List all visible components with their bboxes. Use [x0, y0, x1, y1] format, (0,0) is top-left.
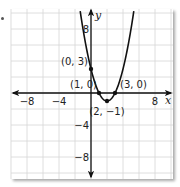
y-axis-label: y — [94, 9, 102, 22]
point-marker — [97, 91, 101, 95]
coordinate-plane: x y −8−48 8−4−8 (0, 3)(1, 0)(3, 0)(2, −1… — [0, 0, 180, 187]
x-axis-label: x — [165, 94, 172, 107]
x-tick-label: 8 — [152, 96, 158, 107]
point-label: (0, 3) — [61, 56, 88, 67]
point-label: (2, −1) — [89, 106, 124, 117]
point-label: (1, 0) — [70, 79, 97, 90]
point-marker — [105, 99, 109, 103]
y-tick-label: −4 — [74, 120, 89, 131]
x-tick-label: −8 — [20, 96, 35, 107]
point-marker — [113, 91, 117, 95]
x-tick-label: −4 — [52, 96, 67, 107]
y-tick-label: −8 — [74, 152, 89, 163]
point-label: (3, 0) — [120, 79, 147, 90]
point-marker — [89, 67, 93, 71]
grid-panel — [11, 9, 173, 179]
